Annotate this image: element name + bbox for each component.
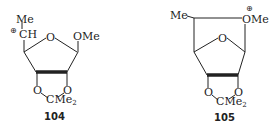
- oxonium-label: OMe: [242, 13, 269, 26]
- methyl-label: Me: [16, 13, 34, 26]
- structure-105: Me ⊕ OMe O O O CMe2 105: [170, 4, 269, 123]
- carbocation-label: CH: [19, 28, 37, 41]
- methoxy-label: OMe: [73, 30, 100, 43]
- acetal-oxygen-1: O: [33, 84, 42, 97]
- compound-label-105: 105: [214, 112, 235, 123]
- ring-oxygen-label: O: [218, 32, 227, 45]
- acetal-carbon-label: CMe2: [216, 95, 247, 109]
- positive-charge-icon: ⊕: [246, 4, 253, 13]
- acetal-oxygen-1: O: [204, 86, 213, 99]
- structure-104: Me ⊕ CH O OMe O O CMe2 104: [10, 13, 100, 122]
- compound-label-104: 104: [44, 111, 65, 122]
- positive-charge-icon: ⊕: [10, 26, 17, 35]
- ring-oxygen-label: O: [46, 31, 55, 44]
- methyl-label: Me: [170, 9, 188, 22]
- acetal-carbon-label: CMe2: [46, 93, 77, 107]
